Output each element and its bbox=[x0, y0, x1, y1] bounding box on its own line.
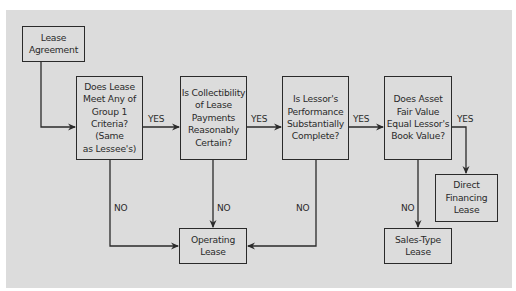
node-text: Direct Financing Lease bbox=[446, 179, 488, 216]
edge-label-no: NO bbox=[296, 203, 309, 213]
node-text: Operating Lease bbox=[191, 234, 235, 259]
edge-label-no: NO bbox=[114, 203, 127, 213]
edge-label-yes: YES bbox=[148, 114, 164, 124]
edge-label-no: NO bbox=[217, 203, 230, 213]
performance-complete-decision: Is Lessor's Performance Substantially Co… bbox=[282, 76, 349, 160]
operating-lease-node: Operating Lease bbox=[179, 228, 247, 264]
lease-agreement-node: Lease Agreement bbox=[22, 26, 85, 62]
fair-value-decision: Does Asset Fair Value Equal Lessor's Boo… bbox=[384, 76, 452, 160]
node-text: Sales-Type Lease bbox=[395, 234, 441, 259]
node-text: Does Asset Fair Value Equal Lessor's Boo… bbox=[387, 93, 450, 143]
edge-label-no: NO bbox=[401, 203, 414, 213]
direct-financing-lease-node: Direct Financing Lease bbox=[435, 174, 498, 222]
edge-label-yes: YES bbox=[251, 114, 267, 124]
node-text: Is Collectibility of Lease Payments Reas… bbox=[182, 87, 246, 149]
edge-label-yes: YES bbox=[353, 114, 369, 124]
node-text: Is Lessor's Performance Substantially Co… bbox=[287, 93, 344, 143]
group1-criteria-decision: Does Lease Meet Any of Group 1 Criteria?… bbox=[76, 76, 143, 160]
sales-type-lease-node: Sales-Type Lease bbox=[384, 228, 452, 264]
node-text: Lease Agreement bbox=[29, 32, 78, 57]
collectibility-decision: Is Collectibility of Lease Payments Reas… bbox=[180, 76, 247, 160]
node-text: Does Lease Meet Any of Group 1 Criteria?… bbox=[77, 81, 142, 155]
edge-label-yes: YES bbox=[457, 114, 473, 124]
